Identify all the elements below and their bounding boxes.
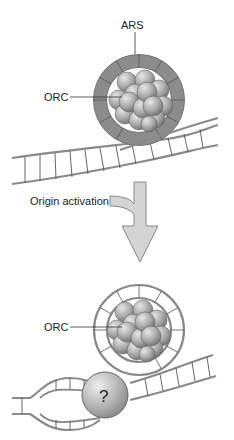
ars-label: ARS xyxy=(121,19,144,31)
origin-activation-label: Origin activation xyxy=(30,195,109,207)
origin-activation-diagram: ARS ORC Origin activation xyxy=(0,0,234,440)
orc-label-bottom: ORC xyxy=(44,321,69,333)
origin-activation-arrow: Origin activation xyxy=(30,182,158,262)
top-panel: ARS ORC xyxy=(12,19,218,184)
question-mark-label: ? xyxy=(99,387,108,406)
bottom-panel: ? ORC xyxy=(12,285,216,430)
unknown-factor-sphere: ? xyxy=(82,372,128,418)
orc-label-top: ORC xyxy=(44,91,69,103)
